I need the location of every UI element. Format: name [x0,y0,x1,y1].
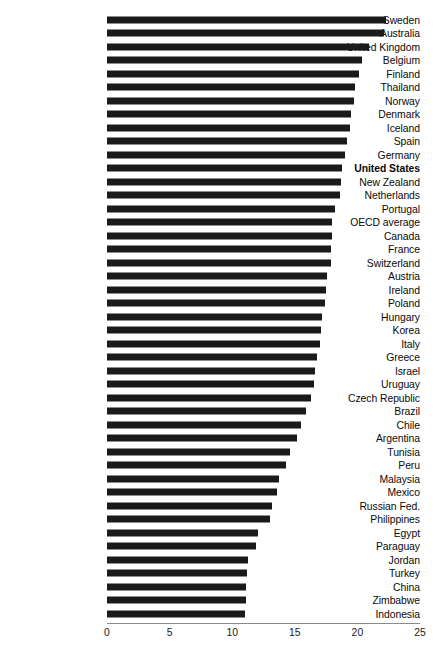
bar-category-label: Tunisia [317,446,420,457]
bar-row: Portugal [0,202,420,216]
bar-row: Denmark [0,108,420,122]
bar [107,556,248,563]
bar-category-label: China [317,581,420,592]
bar [107,273,327,280]
bar [107,516,270,523]
bar-category-label: France [317,244,420,255]
bar-row: New Zealand [0,175,420,189]
bar-row: Italy [0,337,420,351]
bar [107,178,341,185]
bar [107,138,347,145]
bar-category-label: Jordan [317,554,420,565]
bar [107,381,314,388]
x-tick-label: 0 [92,627,122,639]
bar [107,97,354,104]
bar [107,462,286,469]
bar-row: Tunisia [0,445,420,459]
bar-row: Australia [0,27,420,41]
bar-row: Iceland [0,121,420,135]
bar-row: Indonesia [0,607,420,621]
bar-row: Russian Fed. [0,499,420,513]
bar-row: Czech Republic [0,391,420,405]
bar-row: Poland [0,297,420,311]
bar [107,583,246,590]
bar-row: Peru [0,459,420,473]
bar-row: Malaysia [0,472,420,486]
plot-area: SwedenAustraliaUnited KingdomBelgiumFinl… [0,0,435,650]
bar-category-label: Mexico [317,487,420,498]
bar-category-label: Philippines [317,514,420,525]
bar [107,259,331,266]
x-tick-label: 15 [280,627,310,639]
bar-row: Ireland [0,283,420,297]
bar-category-label: Austria [317,271,420,282]
bar [107,610,245,617]
bar-row: Hungary [0,310,420,324]
bar [107,394,311,401]
bar-row: France [0,243,420,257]
bar [107,30,384,37]
bar-row: Germany [0,148,420,162]
bar-category-label: Indonesia [317,608,420,619]
bar-chart: SwedenAustraliaUnited KingdomBelgiumFinl… [0,0,435,650]
bar-row: Canada [0,229,420,243]
bar-row: Zimbabwe [0,594,420,608]
bar [107,246,331,253]
bar-row: Turkey [0,567,420,581]
bar-category-label: Poland [317,298,420,309]
bar-category-label: Uruguay [317,379,420,390]
bar [107,327,321,334]
bar-category-label: Greece [317,352,420,363]
bar-category-label: Argentina [317,433,420,444]
bar-category-label: Peru [317,460,420,471]
bar-category-label: Russian Fed. [317,500,420,511]
x-tick-label: 10 [217,627,247,639]
bar [107,16,386,23]
bar [107,543,256,550]
bar-row: Argentina [0,432,420,446]
bar-row: Brazil [0,405,420,419]
bar-category-label: Turkey [317,568,420,579]
bar [107,165,342,172]
bar [107,124,350,131]
bar-row: Belgium [0,54,420,68]
bar-category-label: Czech Republic [317,392,420,403]
bar-category-label: Malaysia [317,473,420,484]
bar-category-label: Hungary [317,311,420,322]
bar-row: Thailand [0,81,420,95]
bar-row: Uruguay [0,378,420,392]
bar-row: OECD average [0,216,420,230]
bar [107,192,340,199]
bar [107,286,326,293]
bar [107,111,351,118]
bar [107,448,290,455]
bar [107,421,301,428]
bar-row: Philippines [0,513,420,527]
bar-category-label: Korea [317,325,420,336]
bar-row: Austria [0,270,420,284]
bar-category-label: Paraguay [317,541,420,552]
bar [107,570,247,577]
bar [107,151,345,158]
bar [107,43,369,50]
bar [107,205,335,212]
bar-category-label: Ireland [317,284,420,295]
bar [107,219,332,226]
bar-category-label: Zimbabwe [317,595,420,606]
bar-category-label: Israel [317,365,420,376]
bar-row: China [0,580,420,594]
bar [107,475,279,482]
bar-row: Greece [0,351,420,365]
x-tick-label: 20 [342,627,372,639]
bar-category-label: Canada [317,230,420,241]
bar [107,354,317,361]
bar-row: Egypt [0,526,420,540]
bar-row: Switzerland [0,256,420,270]
bar-row: United States [0,162,420,176]
bar [107,340,320,347]
bar [107,502,272,509]
x-tick-label: 25 [405,627,435,639]
x-tick-label: 5 [155,627,185,639]
bar [107,597,246,604]
bar-row: Finland [0,67,420,81]
